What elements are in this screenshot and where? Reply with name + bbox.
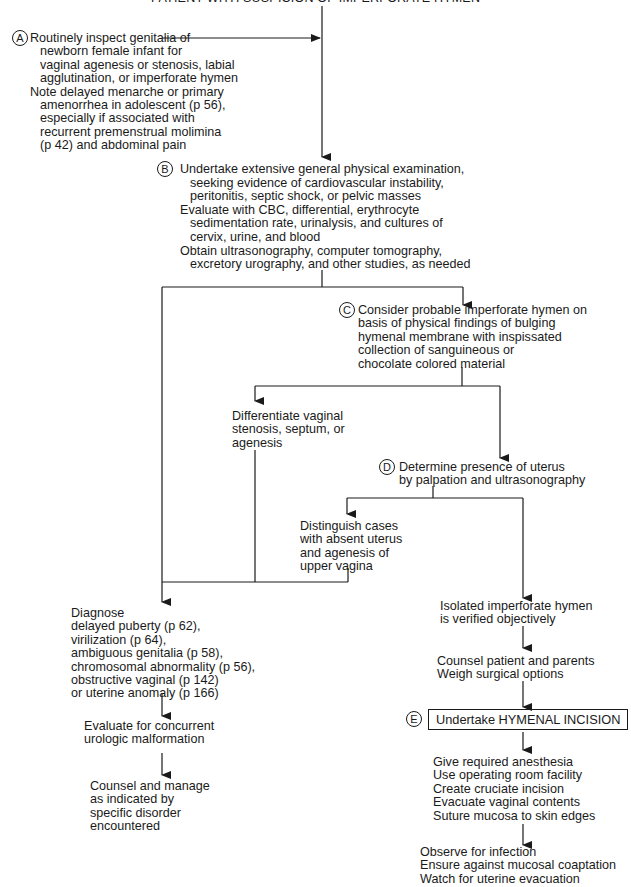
node-counsel-manage-line: encountered — [90, 820, 210, 833]
node-d-determine-uterus: Determine presence of uterus by palpatio… — [399, 461, 585, 488]
node-followup-line: Watch for uterine evacuation — [420, 873, 616, 886]
node-followup-line: Observe for infection — [420, 846, 616, 859]
node-procedure-line: Create cruciate incision — [433, 783, 595, 796]
step-marker-a: A — [12, 30, 28, 46]
node-c-line: hymenal membrane with inspissated — [358, 331, 587, 344]
node-differentiate-line: stenosis, septum, or — [232, 423, 345, 436]
node-b-line: cervix, urine, and blood — [180, 231, 471, 245]
node-diagnose-line: Diagnose — [71, 607, 255, 620]
node-b-line: Obtain ultrasonography, computer tomogra… — [180, 245, 471, 259]
node-b-line: Undertake extensive general physical exa… — [180, 163, 471, 177]
node-b-physical-exam: Undertake extensive general physical exa… — [180, 163, 471, 272]
node-diagnose-line: chromosomal abnormality (p 56), — [71, 661, 255, 674]
node-differentiate-line: agenesis — [232, 437, 345, 450]
node-procedure-line: Evacuate vaginal contents — [433, 796, 595, 809]
node-procedure-line: Suture mucosa to skin edges — [433, 810, 595, 823]
node-b-line: excretory urography, and other studies, … — [180, 258, 471, 272]
node-procedure-line: Use operating room facility — [433, 769, 595, 782]
step-marker-b: B — [157, 161, 173, 177]
node-evaluate-line: Evaluate for concurrent — [84, 720, 214, 733]
node-diagnose-line: obstructive vaginal (p 142) — [71, 674, 255, 687]
node-a-line: especially if associated with — [30, 112, 238, 125]
node-isolated-imperforate: Isolated imperforate hymen is verified o… — [440, 600, 593, 627]
node-procedure-steps: Give required anesthesia Use operating r… — [433, 756, 595, 823]
node-b-line: peritonitis, septic shock, or pelvic mas… — [180, 190, 471, 204]
node-a-line: recurrent premenstrual molimina — [30, 126, 238, 139]
step-marker-d: D — [379, 459, 395, 475]
node-a-line: Routinely inspect genitalia of — [30, 32, 238, 45]
node-isolated-line: is verified objectively — [440, 613, 593, 626]
node-d-line: by palpation and ultrasonography — [399, 474, 585, 487]
node-c-line: chocolate colored material — [358, 358, 587, 371]
node-d-line: Determine presence of uterus — [399, 461, 585, 474]
node-followup-line: Ensure against mucosal coaptation — [420, 859, 616, 872]
node-counsel-patient-line: Weigh surgical options — [437, 668, 595, 681]
node-counsel-manage-line: as indicated by — [90, 793, 210, 806]
node-distinguish-line: Distinguish cases — [300, 520, 402, 533]
node-e-hymenal-incision: Undertake HYMENAL INCISION — [428, 709, 628, 730]
node-followup: Observe for infection Ensure against muc… — [420, 846, 616, 886]
node-diagnose: Diagnose delayed puberty (p 62), viriliz… — [71, 607, 255, 701]
node-differentiate-line: Differentiate vaginal — [232, 410, 345, 423]
step-marker-e: E — [406, 711, 422, 727]
node-isolated-line: Isolated imperforate hymen — [440, 600, 593, 613]
node-diagnose-line: or uterine anomaly (p 166) — [71, 687, 255, 700]
step-marker-c: C — [339, 302, 355, 318]
node-counsel-patient: Counsel patient and parents Weigh surgic… — [437, 655, 595, 682]
node-evaluate-line: urologic malformation — [84, 733, 214, 746]
node-a-line: newborn female infant for — [30, 45, 238, 58]
node-distinguish-line: and agenesis of — [300, 547, 402, 560]
node-distinguish-line: upper vagina — [300, 560, 402, 573]
node-procedure-line: Give required anesthesia — [433, 756, 595, 769]
node-diagnose-line: delayed puberty (p 62), — [71, 620, 255, 633]
node-distinguish-cases: Distinguish cases with absent uterus and… — [300, 520, 402, 574]
node-c-line: basis of physical findings of bulging — [358, 317, 587, 330]
node-c-consider-imperforate: Consider probable imperforate hymen on b… — [358, 304, 587, 371]
node-counsel-manage-line: specific disorder — [90, 807, 210, 820]
node-a-line: vaginal agenesis or stenosis, labial — [30, 59, 238, 72]
node-diagnose-line: virilization (p 64), — [71, 634, 255, 647]
node-a-line: amenorrhea in adolescent (p 56), — [30, 99, 238, 112]
node-counsel-patient-line: Counsel patient and parents — [437, 655, 595, 668]
node-distinguish-line: with absent uterus — [300, 533, 402, 546]
node-counsel-manage: Counsel and manage as indicated by speci… — [90, 780, 210, 834]
node-c-line: collection of sanguineous or — [358, 344, 587, 357]
node-diagnose-line: ambiguous genitalia (p 58), — [71, 647, 255, 660]
node-b-line: sedimentation rate, urinalysis, and cult… — [180, 217, 471, 231]
node-c-line: Consider probable imperforate hymen on — [358, 304, 587, 317]
node-counsel-manage-line: Counsel and manage — [90, 780, 210, 793]
node-differentiate-vaginal: Differentiate vaginal stenosis, septum, … — [232, 410, 345, 450]
node-b-line: Evaluate with CBC, differential, erythro… — [180, 204, 471, 218]
node-a-routine-inspection: Routinely inspect genitalia of newborn f… — [30, 32, 238, 153]
node-evaluate-urologic: Evaluate for concurrent urologic malform… — [84, 720, 214, 747]
node-b-line: seeking evidence of cardiovascular insta… — [180, 177, 471, 191]
node-a-line: agglutination, or imperforate hymen — [30, 72, 238, 85]
node-a-line: (p 42) and abdominal pain — [30, 139, 238, 152]
node-a-line: Note delayed menarche or primary — [30, 86, 238, 99]
